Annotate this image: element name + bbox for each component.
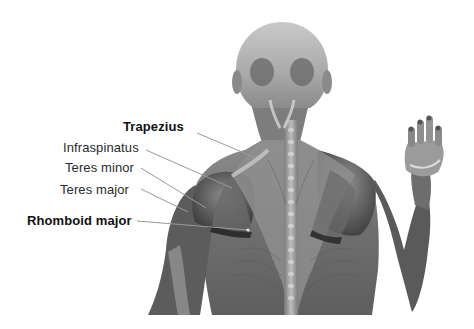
label-teres-minor: Teres minor (65, 161, 134, 174)
label-infraspinatus: Infraspinatus (63, 141, 139, 154)
label-rhomboid-major: Rhomboid major (27, 214, 132, 227)
leader-line-trapezius (197, 133, 256, 158)
head (236, 22, 328, 108)
label-trapezius: Trapezius (123, 120, 184, 133)
right-hand (405, 116, 444, 177)
label-teres-major: Teres major (60, 183, 129, 196)
anatomy-diagram: Trapezius Infraspinatus Teres minor Tere… (0, 0, 474, 329)
right-ear (322, 70, 332, 94)
left-ear (232, 70, 242, 94)
vertebrae (288, 128, 294, 300)
